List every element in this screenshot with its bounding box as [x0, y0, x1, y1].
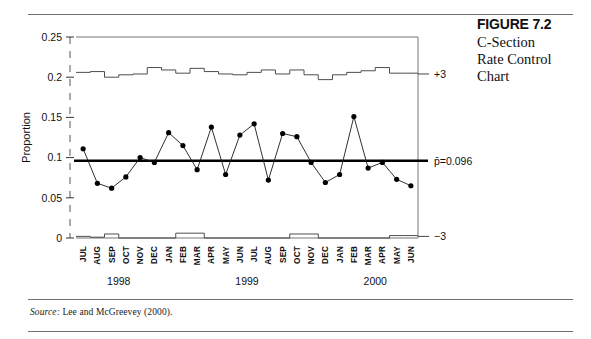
data-point[interactable] — [351, 114, 356, 119]
figure-page: 0.250.20.150.10.050Proportion+3p̄=0.096−… — [0, 0, 591, 339]
x-month-label: NOV — [307, 246, 316, 265]
data-point[interactable] — [166, 130, 171, 135]
y-axis-title: Proportion — [20, 112, 32, 163]
y-tick-label: 0.2 — [47, 71, 62, 83]
data-point[interactable] — [294, 134, 299, 139]
data-line — [83, 117, 411, 189]
x-month-label: AUG — [264, 246, 273, 265]
data-point[interactable] — [380, 160, 385, 165]
x-month-label: DEC — [150, 246, 159, 264]
y-tick-label: 0.1 — [47, 151, 62, 163]
data-point[interactable] — [337, 172, 342, 177]
source-label: Source: — [30, 307, 60, 317]
x-month-label: MAR — [364, 246, 373, 265]
data-point[interactable] — [152, 160, 157, 165]
x-year-label: 2000 — [364, 275, 388, 287]
x-month-label: OCT — [122, 246, 131, 264]
x-month-label: JUN — [236, 246, 245, 263]
x-month-label: JAN — [336, 246, 345, 263]
plot-frame — [76, 37, 418, 238]
data-point[interactable] — [138, 155, 143, 160]
data-point[interactable] — [95, 181, 100, 186]
data-point[interactable] — [123, 174, 128, 179]
data-point[interactable] — [366, 165, 371, 170]
data-point[interactable] — [180, 143, 185, 148]
lower-control-limit-line — [76, 233, 418, 238]
x-month-label: DEC — [321, 246, 330, 264]
x-month-label: APR — [378, 246, 387, 264]
y-tick-label: 0.25 — [42, 31, 63, 43]
x-month-label: NOV — [136, 246, 145, 265]
x-year-label: 1999 — [235, 275, 259, 287]
figure-title-line-3: Chart — [477, 68, 587, 85]
data-point[interactable] — [280, 131, 285, 136]
x-month-label: MAR — [193, 246, 202, 265]
x-month-label: MAY — [393, 246, 402, 264]
data-point[interactable] — [81, 146, 86, 151]
x-month-label: JUL — [79, 246, 88, 262]
x-month-label: MAY — [222, 246, 231, 264]
x-month-label: JAN — [165, 246, 174, 263]
x-month-label: APR — [207, 246, 216, 264]
upper-control-limit-line — [76, 68, 418, 80]
figure-caption: FIGURE 7.2 C-Section Rate Control Chart — [477, 16, 587, 85]
data-point[interactable] — [323, 180, 328, 185]
lcl-label: −3 — [434, 230, 446, 242]
data-point[interactable] — [408, 183, 413, 188]
data-point[interactable] — [252, 121, 257, 126]
data-point[interactable] — [237, 132, 242, 137]
data-point[interactable] — [223, 172, 228, 177]
data-point[interactable] — [309, 160, 314, 165]
data-point[interactable] — [195, 167, 200, 172]
source-line: Source: Lee and McGreevey (2000). — [30, 307, 173, 317]
x-month-label: OCT — [293, 246, 302, 264]
x-year-label: 1998 — [107, 275, 131, 287]
source-text: Lee and McGreevey (2000). — [60, 307, 173, 317]
data-point[interactable] — [109, 186, 114, 191]
x-month-label: FEB — [350, 246, 359, 263]
center-line-label: p̄=0.096 — [434, 155, 472, 167]
x-month-label: SEP — [108, 246, 117, 263]
x-month-label: SEP — [279, 246, 288, 263]
ucl-label: +3 — [434, 68, 446, 80]
y-tick-label: 0 — [56, 232, 62, 244]
x-month-label: JUL — [250, 246, 259, 262]
x-month-label: JUN — [407, 246, 416, 263]
data-point[interactable] — [209, 124, 214, 129]
x-month-label: FEB — [179, 246, 188, 263]
y-tick-label: 0.15 — [42, 111, 63, 123]
y-tick-label: 0.05 — [42, 192, 63, 204]
data-point[interactable] — [394, 177, 399, 182]
data-point[interactable] — [266, 178, 271, 183]
figure-title-line-2: Rate Control — [477, 51, 587, 68]
x-month-label: AUG — [93, 246, 102, 265]
figure-title-line-1: C-Section — [477, 34, 587, 51]
figure-number: FIGURE 7.2 — [477, 16, 587, 33]
